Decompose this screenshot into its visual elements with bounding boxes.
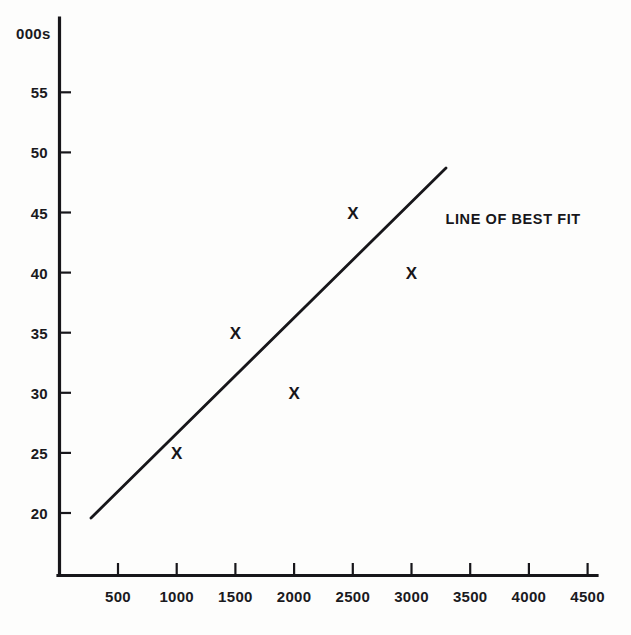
x-tick-label: 3500 (453, 588, 488, 605)
y-tick-label: 45 (8, 204, 48, 221)
y-tick-label: 30 (8, 384, 48, 401)
data-point-marker: X (347, 204, 358, 221)
y-tick-marks (60, 92, 71, 513)
trendline-group (91, 168, 446, 518)
x-tick-label: 500 (105, 588, 131, 605)
data-point-marker: X (171, 444, 182, 461)
x-tick-label: 3000 (394, 588, 429, 605)
y-tick-label: 20 (8, 505, 48, 522)
data-point-marker: X (288, 384, 299, 401)
trendline-annotation: LINE OF BEST FIT (446, 211, 581, 227)
plot-canvas (0, 0, 631, 635)
y-tick-label: 40 (8, 264, 48, 281)
data-point-marker: X (230, 324, 241, 341)
y-axis-title: 000s (16, 25, 51, 42)
y-tick-label: 25 (8, 444, 48, 461)
x-tick-label: 2000 (277, 588, 312, 605)
x-tick-marks (118, 563, 588, 574)
x-tick-label: 4500 (570, 588, 605, 605)
x-tick-label: 2500 (336, 588, 371, 605)
y-tick-label: 55 (8, 84, 48, 101)
line-of-best-fit (91, 168, 446, 518)
x-tick-label: 4000 (512, 588, 547, 605)
chart-figure: 000s 2025303540455055 500100015002000250… (0, 0, 631, 635)
y-tick-label: 50 (8, 144, 48, 161)
x-tick-label: 1500 (218, 588, 253, 605)
data-point-marker: X (406, 264, 417, 281)
y-tick-label: 35 (8, 324, 48, 341)
x-tick-label: 1000 (159, 588, 194, 605)
axes-group (58, 18, 597, 576)
